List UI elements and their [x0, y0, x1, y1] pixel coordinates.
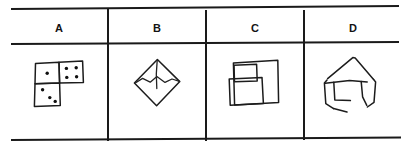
dot: [41, 88, 44, 91]
three-squares-with-dots-icon: [11, 50, 107, 130]
dot: [54, 100, 57, 103]
dot: [75, 75, 78, 78]
dot: [65, 76, 68, 79]
column-header-d: D: [305, 18, 401, 38]
figure-cell-a: [11, 50, 107, 130]
column-header-b: B: [109, 18, 205, 38]
overlapping-squares-icon: [207, 50, 303, 130]
dot: [46, 72, 49, 75]
figure-cell-c: [207, 50, 303, 130]
figure-cell-d: [305, 50, 401, 130]
column-header-a: A: [11, 18, 107, 38]
figure-cell-b: [109, 50, 205, 130]
dot: [65, 67, 68, 70]
dot: [48, 96, 51, 99]
diamond-with-folded-flap-icon: [109, 50, 205, 130]
column-header-c: C: [207, 18, 303, 38]
dot: [75, 66, 78, 69]
figure-comparison-table: A B C D: [0, 0, 409, 151]
house-shape-with-box-icon: [305, 50, 401, 130]
